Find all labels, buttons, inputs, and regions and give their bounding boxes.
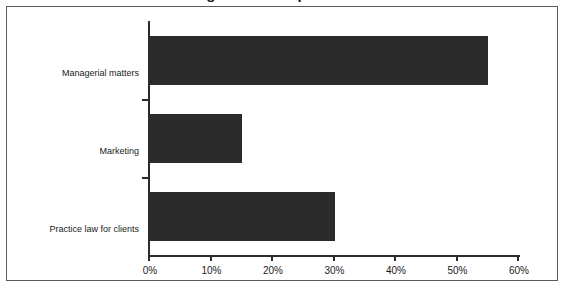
x-axis-tick	[456, 255, 458, 261]
x-axis-tick	[333, 255, 335, 261]
bar	[150, 114, 242, 163]
category-label: Managerial matters	[0, 68, 139, 78]
x-axis-tick	[271, 255, 273, 261]
bar	[150, 192, 335, 241]
x-axis-tick	[148, 255, 150, 261]
bar	[150, 36, 488, 85]
x-axis-tick	[517, 255, 519, 261]
x-axis-tick-label: 20%	[243, 265, 303, 276]
x-axis-tick	[394, 255, 396, 261]
x-axis-tick-label: 10%	[182, 265, 242, 276]
y-axis-tick	[142, 177, 148, 179]
category-label: Marketing	[0, 146, 139, 156]
plot-area: 0%10%20%30%40%50%60% Managerial mattersM…	[148, 21, 559, 255]
chart-figure: Percentage of Time Spent on Activities 0…	[0, 0, 567, 289]
x-axis-tick-label: 60%	[489, 265, 549, 276]
category-label: Practice law for clients	[0, 224, 139, 234]
x-axis-tick	[210, 255, 212, 261]
y-axis-tick	[142, 99, 148, 101]
x-axis-tick-label: 40%	[366, 265, 426, 276]
x-axis-tick-label: 30%	[305, 265, 365, 276]
x-axis-tick-label: 50%	[428, 265, 488, 276]
y-axis-category-labels: Managerial mattersMarketingPractice law …	[0, 35, 139, 269]
chart-frame: 0%10%20%30%40%50%60% Managerial mattersM…	[6, 6, 558, 281]
